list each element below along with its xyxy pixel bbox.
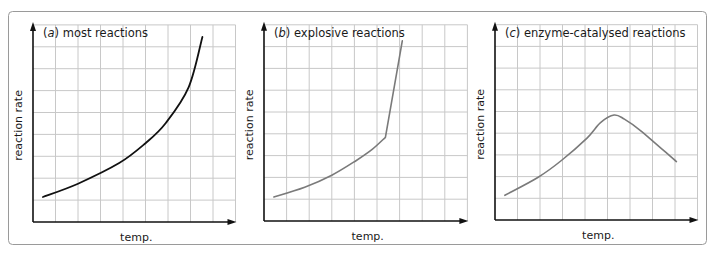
y-axis-label: reaction rate xyxy=(12,90,25,161)
x-axis-label: temp. xyxy=(582,229,614,242)
panel-title: (b) explosive reactions xyxy=(274,26,405,40)
x-axis-label: temp. xyxy=(352,230,384,243)
panel-title: (c) enzyme-catalysed reactions xyxy=(505,26,686,40)
y-axis-label: reaction rate xyxy=(474,89,487,160)
reaction-rate-figure: (a) most reactions temp. reaction rate (… xyxy=(0,0,722,257)
panel-title: (a) most reactions xyxy=(43,26,148,40)
y-axis-label: reaction rate xyxy=(243,89,256,160)
x-axis-label: temp. xyxy=(120,231,152,244)
